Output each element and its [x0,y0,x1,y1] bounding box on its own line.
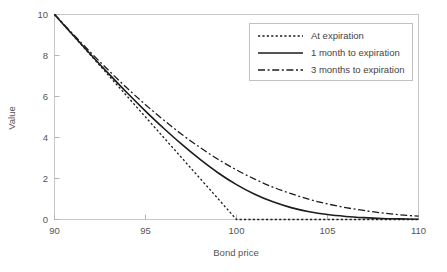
x-tick-label: 110 [411,225,426,236]
y-tick-label: 10 [37,9,48,20]
y-tick-label: 0 [43,214,48,225]
y-tick-label: 2 [43,173,48,184]
x-tick-label: 105 [320,225,336,236]
chart-figure: 10 8 6 4 2 0 90 95 100 105 110 Bond pric… [0,0,447,272]
y-axis-title: Value [6,106,17,130]
legend-label-at-expiration: At expiration [311,30,364,41]
legend-label-3-months-to-expiration: 3 months to expiration [311,64,404,75]
bond-option-value-chart: 10 8 6 4 2 0 90 95 100 105 110 Bond pric… [0,0,447,272]
legend: At expiration 1 month to expiration 3 mo… [250,24,413,81]
legend-label-1-month-to-expiration: 1 month to expiration [311,47,400,58]
y-tick-label: 6 [43,91,48,102]
y-tick-label: 8 [43,50,48,61]
y-tick-label: 4 [43,132,48,143]
x-tick-label: 90 [49,225,60,236]
x-axis-title: Bond price [213,247,258,258]
x-tick-label: 95 [140,225,151,236]
x-tick-label: 100 [229,225,245,236]
